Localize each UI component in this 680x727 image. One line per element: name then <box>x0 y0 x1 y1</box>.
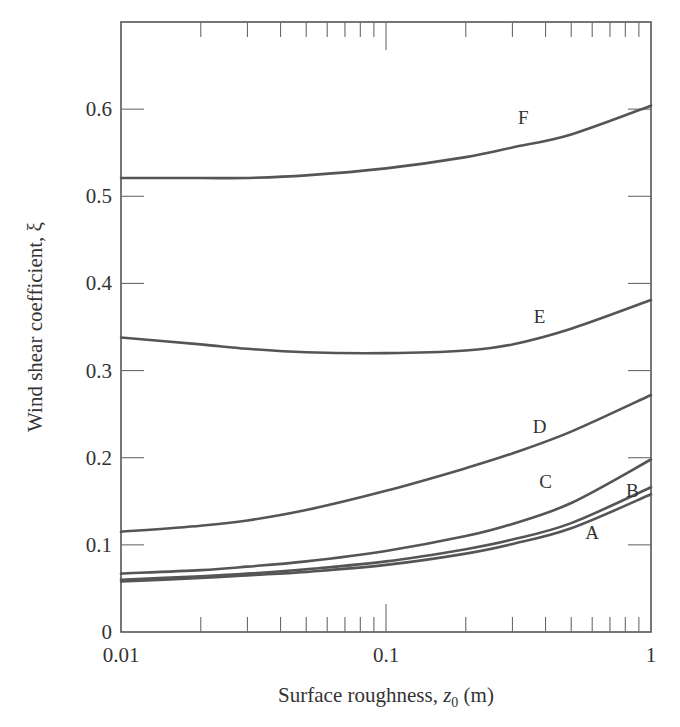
curve-label-e: E <box>534 306 546 327</box>
x-tick-label: 1 <box>646 643 657 667</box>
curve-c <box>121 460 651 574</box>
curve-label-c: C <box>539 471 552 492</box>
curves <box>121 106 651 582</box>
plot-area: ABCDEF <box>121 22 651 632</box>
x-axis-label: Surface roughness, z0 (m) <box>278 683 494 710</box>
curve-label-a: A <box>585 522 599 543</box>
y-ticks <box>121 109 651 545</box>
curve-e <box>121 300 651 353</box>
x-tick-label: 0.01 <box>103 643 140 667</box>
y-tick-label: 0.3 <box>86 359 112 383</box>
y-tick-labels: 00.10.20.30.40.50.6 <box>86 97 113 644</box>
curve-label-d: D <box>533 416 547 437</box>
y-tick-label: 0.6 <box>86 97 112 121</box>
curve-a <box>121 494 651 581</box>
wind-shear-chart: ABCDEF 0.010.11 00.10.20.30.40.50.6 Surf… <box>0 0 680 727</box>
curve-f <box>121 106 651 178</box>
y-tick-label: 0.5 <box>86 184 112 208</box>
y-tick-label: 0 <box>102 620 113 644</box>
curve-label-b: B <box>626 480 639 501</box>
plot-frame <box>121 22 651 632</box>
x-tick-labels: 0.010.11 <box>103 643 657 667</box>
x-tick-label: 0.1 <box>373 643 399 667</box>
y-tick-label: 0.1 <box>86 533 112 557</box>
y-tick-label: 0.4 <box>86 271 113 295</box>
curve-d <box>121 395 651 532</box>
curve-label-f: F <box>518 107 529 128</box>
y-axis-label: Wind shear coefficient, ξ <box>23 222 47 432</box>
y-tick-label: 0.2 <box>86 446 112 470</box>
